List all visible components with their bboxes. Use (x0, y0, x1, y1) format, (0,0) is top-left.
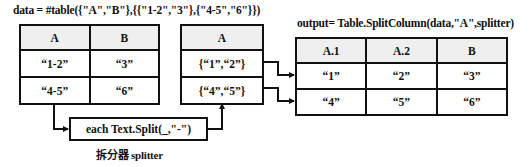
arrow-splitter-to-split-table (208, 104, 222, 129)
arrow-row1-to-output (264, 62, 294, 75)
connector-arrows (0, 0, 532, 167)
arrow-input-to-splitter (54, 103, 68, 129)
arrow-row2-to-output (264, 88, 294, 101)
